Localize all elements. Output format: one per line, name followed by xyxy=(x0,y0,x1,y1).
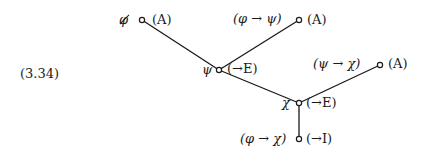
node-circle-psi xyxy=(216,67,221,72)
formula-psi-implies-chi: (ψ → χ) xyxy=(313,57,360,71)
formula-phi-implies-psi: (φ → ψ) xyxy=(233,12,282,26)
equation-number: (3.34) xyxy=(20,66,59,81)
node-circle-psiimplieschi xyxy=(377,62,382,67)
struck-phi: φ xyxy=(119,13,128,27)
rule-label-assumption: (A) xyxy=(152,13,172,27)
tree-edges xyxy=(0,0,422,161)
node-circle-phiimpliespsi xyxy=(296,17,301,22)
rule-label-implies-elim: (→E) xyxy=(227,62,258,76)
node-circle-phi xyxy=(139,17,144,22)
node-circle-chi xyxy=(296,100,301,105)
rule-label-assumption: (A) xyxy=(307,13,327,27)
rule-label-implies-intro: (→I) xyxy=(306,132,332,146)
formula-phi-discharged: φ xyxy=(119,13,128,27)
formula-chi: χ xyxy=(282,96,290,110)
formula-phi-implies-chi: (φ → χ) xyxy=(240,132,286,146)
derivation-tree: (3.34) φ (A) (φ → ψ) (A) ψ (→E) (ψ → χ) … xyxy=(0,0,422,161)
formula-psi: ψ xyxy=(202,63,212,77)
rule-label-assumption: (A) xyxy=(388,57,408,71)
node-circle-phiimplieschi xyxy=(296,136,301,141)
rule-label-implies-elim: (→E) xyxy=(306,96,337,110)
